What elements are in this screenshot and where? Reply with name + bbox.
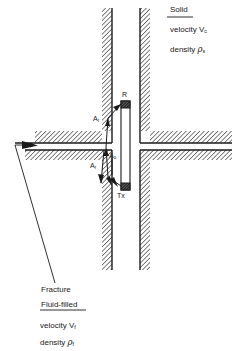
- receiver-box: [121, 101, 130, 108]
- incident-wave-label: Ao: [109, 152, 116, 162]
- fracture-right-upper-rock: [140, 131, 232, 143]
- transmitter-box: [121, 183, 130, 190]
- right-wall-upper: [140, 8, 150, 143]
- transmitted-arrowhead-icon: [113, 104, 121, 111]
- solid-heading: Solid: [170, 5, 188, 15]
- solid-density-subscript: s: [203, 48, 206, 54]
- fracture-right-lower-rock: [140, 150, 232, 160]
- fracture-left-upper-rock: [15, 131, 112, 143]
- transmitter-label: Tx: [117, 192, 125, 200]
- solid-density: density ρs: [170, 44, 205, 56]
- solid-velocity: velocity Vc: [170, 25, 207, 36]
- receiver-label: R: [122, 91, 127, 99]
- reflected-wave-label: Ar: [90, 162, 96, 172]
- solid-density-label: density: [170, 45, 195, 54]
- solid-velocity-label: velocity: [170, 25, 197, 34]
- fracture-leader-line: [15, 141, 55, 283]
- fracture-density-subscript: f: [73, 341, 75, 347]
- logging-tool: [121, 101, 130, 190]
- fracture-left-lower-rock: [25, 150, 112, 160]
- fracture-velocity-label: velocity: [40, 321, 67, 330]
- fracture-density-label: density: [40, 338, 65, 347]
- right-wall-lower: [140, 150, 150, 270]
- fracture-title: Fracture: [41, 285, 71, 295]
- fracture-velocity-subscript: f: [74, 324, 76, 330]
- solid-velocity-subscript: c: [204, 28, 207, 34]
- fracture-density: density ρf: [40, 337, 74, 349]
- fracture-heading: Fluid-filled: [41, 300, 77, 310]
- fracture-velocity: velocity Vf: [40, 321, 76, 332]
- transmitted-wave-label: At: [93, 115, 99, 125]
